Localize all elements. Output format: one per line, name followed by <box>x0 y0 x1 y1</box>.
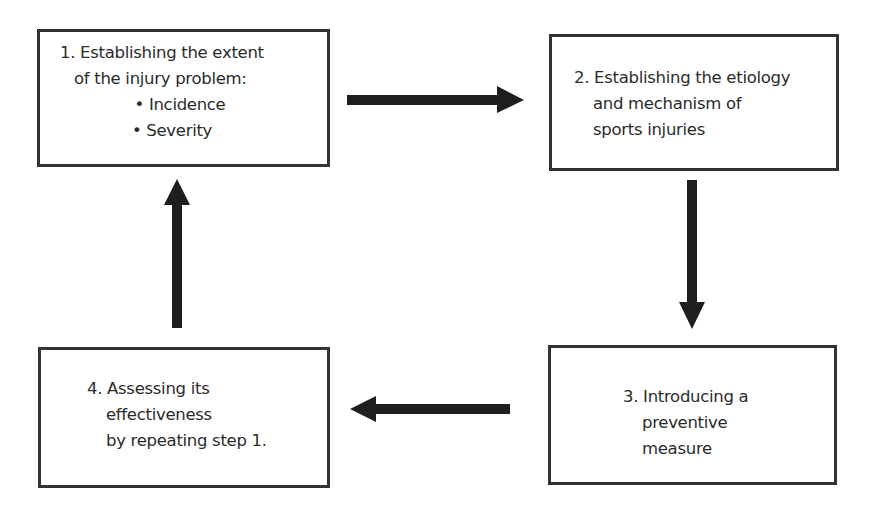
bullet-icon: • <box>132 121 141 140</box>
step-3-line-1: 3. Introducing a <box>623 384 748 410</box>
arrow-right-step1-to-step2 <box>347 86 524 113</box>
step-4-line-1: 4. Assessing its <box>87 376 267 402</box>
step-4-line-3: by repeating step 1. <box>87 428 267 454</box>
arrow-left-step3-to-step4 <box>350 396 510 422</box>
step-4-text: 4. Assessing its effectiveness by repeat… <box>87 376 267 454</box>
step-3-text: 3. Introducing a preventive measure <box>623 384 748 462</box>
step-2-text: 2. Establishing the etiology and mechani… <box>574 65 790 143</box>
arrow-up-step4-to-step1 <box>164 179 190 328</box>
step-4-line-2: effectiveness <box>87 402 267 428</box>
step-2-line-1: 2. Establishing the etiology <box>574 65 790 91</box>
step-1-bullet-incidence: • Incidence <box>60 92 310 118</box>
step-1-line-1: 1. Establishing the extent <box>60 40 310 66</box>
step-2-line-3: sports injuries <box>574 117 790 143</box>
step-1-line-2: of the injury problem: <box>60 66 310 92</box>
bullet-icon: • <box>135 95 144 114</box>
step-3-line-3: measure <box>623 436 748 462</box>
step-2-line-2: and mechanism of <box>574 91 790 117</box>
step-1-bullet-severity: • Severity <box>60 118 310 144</box>
bullet-text-severity: Severity <box>146 121 212 140</box>
step-1-text: 1. Establishing the extent of the injury… <box>60 40 310 144</box>
arrow-down-step2-to-step3 <box>679 180 705 329</box>
bullet-text-incidence: Incidence <box>149 95 226 114</box>
step-3-line-2: preventive <box>623 410 748 436</box>
